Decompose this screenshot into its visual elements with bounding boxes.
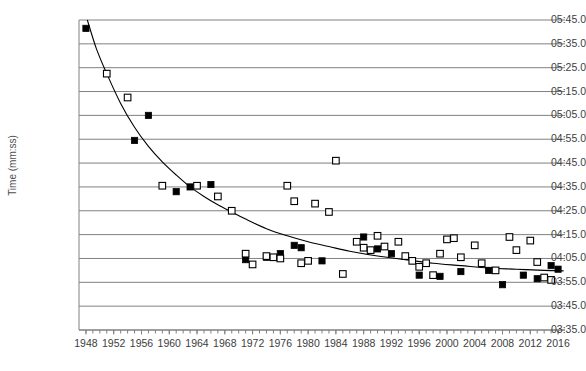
y-tick-label: 05:45.0	[534, 14, 586, 25]
data-point-open	[263, 253, 270, 260]
data-point-filled	[187, 184, 193, 190]
y-tick-label: 05:25.0	[534, 62, 586, 73]
data-point-open	[444, 236, 451, 243]
data-point-open	[513, 247, 520, 254]
data-point-open	[333, 157, 340, 164]
data-point-filled	[83, 25, 89, 31]
y-tick-label: 04:25.0	[534, 205, 586, 216]
y-tick-label: 03:55.0	[534, 276, 586, 287]
data-point-open	[284, 182, 291, 189]
data-point-open	[478, 260, 485, 267]
data-point-open	[416, 264, 423, 271]
y-axis-title-label: Time (mm:ss)	[7, 135, 18, 196]
x-tick-label: 1964	[185, 338, 208, 349]
data-point-filled	[458, 268, 464, 274]
data-point-filled	[361, 234, 367, 240]
data-point-open	[395, 238, 402, 245]
data-point-open	[527, 237, 534, 244]
data-point-open	[374, 233, 381, 240]
data-point-open	[409, 258, 416, 265]
x-tick-label: 1968	[213, 338, 236, 349]
data-point-open	[228, 207, 235, 214]
data-point-open	[360, 244, 367, 251]
x-tick-label: 2008	[491, 338, 514, 349]
data-point-open	[312, 200, 319, 207]
x-tick-label: 1952	[102, 338, 125, 349]
data-point-open	[506, 234, 513, 241]
x-tick-label: 1972	[241, 338, 264, 349]
data-point-filled	[388, 251, 394, 257]
data-point-open	[249, 261, 256, 268]
data-point-open	[492, 267, 499, 274]
data-point-open	[159, 182, 166, 189]
data-point-filled	[374, 246, 380, 252]
chart-container: Time (mm:ss) 05:45.005:35.005:25.005:15.…	[0, 0, 586, 371]
data-point-open	[437, 250, 444, 257]
data-point-filled	[437, 273, 443, 279]
data-point-open	[305, 258, 312, 265]
data-point-filled	[173, 189, 179, 195]
data-point-open	[270, 254, 277, 261]
x-tick-label: 1992	[380, 338, 403, 349]
y-tick-label: 05:05.0	[534, 109, 586, 120]
data-point-open	[103, 70, 110, 77]
x-tick-label: 1960	[158, 338, 181, 349]
y-tick-label: 04:15.0	[534, 229, 586, 240]
data-point-filled	[208, 181, 214, 187]
data-point-filled	[548, 263, 554, 269]
data-point-filled	[416, 272, 422, 278]
data-point-open	[291, 198, 298, 205]
y-tick-label: 04:45.0	[534, 157, 586, 168]
y-tick-label: 05:35.0	[534, 38, 586, 49]
data-point-open	[451, 235, 458, 242]
data-point-filled	[291, 242, 297, 248]
data-point-open	[340, 271, 347, 278]
data-point-open	[458, 254, 465, 261]
data-point-open	[423, 260, 430, 267]
data-point-open	[471, 242, 478, 249]
data-point-filled	[486, 267, 492, 273]
data-point-open	[326, 209, 333, 216]
gridlines	[79, 20, 565, 330]
x-tick-label: 1988	[352, 338, 375, 349]
axis-lines	[79, 20, 565, 330]
data-point-open	[277, 255, 284, 262]
y-tick-label: 04:05.0	[534, 252, 586, 263]
y-tick-label: 05:15.0	[534, 86, 586, 97]
data-point-filled	[319, 258, 325, 264]
x-tick-label: 2004	[463, 338, 486, 349]
x-tick-label: 1948	[74, 338, 97, 349]
data-point-filled	[520, 272, 526, 278]
x-tick-label: 1984	[324, 338, 347, 349]
x-tick-label: 2012	[519, 338, 542, 349]
x-axis-minor-ticks	[86, 330, 558, 334]
data-point-open	[242, 250, 249, 257]
x-tick-label: 1956	[130, 338, 153, 349]
x-tick-label: 2016	[546, 338, 569, 349]
x-tick-label: 1976	[269, 338, 292, 349]
y-axis-title: Time (mm:ss)	[2, 0, 22, 330]
data-points	[83, 25, 561, 288]
x-tick-label: 1980	[296, 338, 319, 349]
data-point-filled	[555, 266, 561, 272]
plot-area	[0, 0, 586, 371]
data-point-open	[298, 260, 305, 267]
data-point-open	[381, 243, 388, 250]
trendline-path	[87, 20, 563, 271]
data-point-filled	[131, 137, 137, 143]
data-point-filled	[298, 245, 304, 251]
data-point-filled	[145, 112, 151, 118]
y-tick-label: 03:45.0	[534, 300, 586, 311]
y-tick-label: 04:35.0	[534, 181, 586, 192]
y-tick-label: 04:55.0	[534, 133, 586, 144]
trendline	[87, 20, 563, 271]
data-point-open	[124, 94, 131, 101]
data-point-open	[194, 182, 201, 189]
y-tick-label: 03:35.0	[534, 324, 586, 335]
data-point-filled	[499, 282, 505, 288]
x-tick-label: 2000	[435, 338, 458, 349]
x-tick-label: 1996	[408, 338, 431, 349]
data-point-open	[353, 238, 360, 245]
data-point-open	[430, 272, 437, 279]
data-point-open	[215, 193, 222, 200]
